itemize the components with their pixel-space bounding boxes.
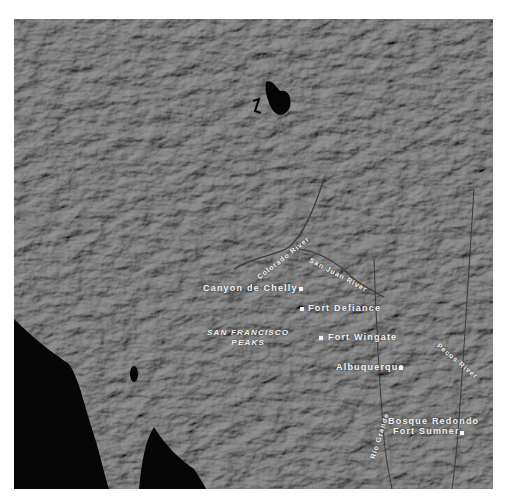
place-label-fort-defiance: Fort Defiance: [308, 303, 381, 313]
place-label-fort-wingate: Fort Wingate: [328, 332, 397, 342]
location-dot: [460, 431, 464, 435]
place-label-canyon-de-chelly: Canyon de Chelly: [203, 283, 298, 293]
place-label-bosque-redondo: Bosque Redondo: [388, 416, 479, 426]
place-label-albuquerque: Albuquerque: [336, 362, 405, 372]
location-dot: [300, 307, 304, 311]
place-label-san-francisco-peaks: SAN FRANCISCO PEAKS: [207, 328, 289, 348]
location-dot: [299, 287, 303, 291]
location-dot: [399, 366, 403, 370]
peak-label-line2: PEAKS: [207, 338, 289, 348]
relief-map: Colorado River San Juan River Pecos Rive…: [14, 19, 493, 489]
peak-label-line1: SAN FRANCISCO: [207, 328, 289, 338]
location-dot: [319, 336, 323, 340]
place-label-fort-sumner: Fort Sumner: [393, 426, 460, 436]
